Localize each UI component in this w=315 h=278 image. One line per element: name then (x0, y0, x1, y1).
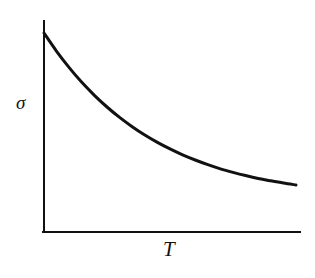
plot-area (0, 0, 315, 278)
decay-curve (44, 33, 296, 185)
x-axis-label: T (163, 239, 175, 260)
y-axis-label: σ (16, 93, 25, 112)
figure-panel: σ T (0, 0, 315, 278)
